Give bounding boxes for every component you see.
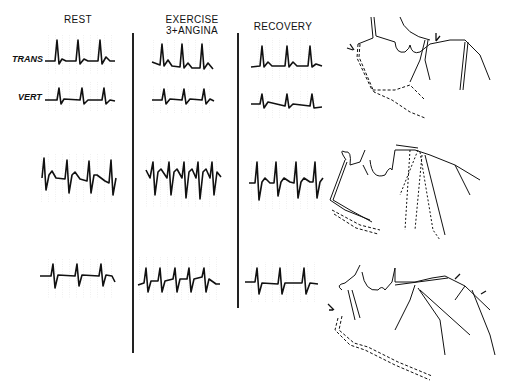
ecg-exercise-trans	[152, 40, 214, 75]
ecg-recovery-trans	[251, 38, 322, 80]
ecg-rest-vert	[45, 82, 115, 112]
ecg-row3-rest	[40, 258, 116, 298]
ecg-row2-recovery	[248, 160, 323, 210]
ecg-row2-rest	[41, 153, 116, 203]
ecg-recovery-vert	[251, 90, 322, 118]
ecg-rest-trans	[45, 35, 115, 75]
coronary-diagram-3	[328, 265, 495, 380]
coronary-diagram-1	[347, 17, 490, 118]
ecg-exercise-vert	[152, 86, 214, 114]
figure-canvas	[0, 0, 505, 386]
coronary-diagram-2	[330, 145, 480, 240]
ecg-row2-exercise	[145, 157, 221, 207]
ecg-row3-exercise	[138, 256, 222, 300]
ecg-row3-recovery	[245, 262, 319, 302]
